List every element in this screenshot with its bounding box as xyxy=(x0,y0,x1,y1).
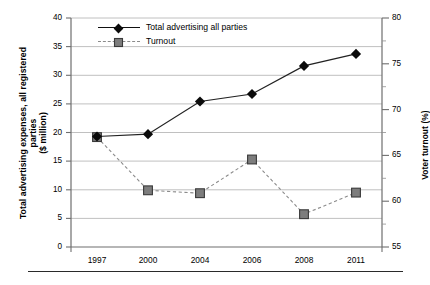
right-tick-65: 65 xyxy=(392,150,418,159)
right-tick-55: 55 xyxy=(392,242,418,251)
x-tick-2011: 2011 xyxy=(330,255,382,265)
x-tick-2000: 2000 xyxy=(122,255,174,265)
square-marker-icon xyxy=(113,37,124,48)
left-tick-40: 40 xyxy=(36,13,62,22)
x-tick-2006: 2006 xyxy=(226,255,278,265)
legend-label-advertising: Total advertising all parties xyxy=(146,22,247,32)
right-tick-60: 60 xyxy=(392,196,418,205)
legend-item-advertising: Total advertising all parties xyxy=(98,20,247,34)
x-tick-2008: 2008 xyxy=(278,255,330,265)
series-advertising-line xyxy=(97,54,356,137)
legend-label-turnout: Turnout xyxy=(146,36,175,46)
x-tick-2004: 2004 xyxy=(174,255,226,265)
right-tick-75: 75 xyxy=(392,59,418,68)
left-axis-ticks xyxy=(66,18,71,247)
y-axis-left-title: Total advertising expenses, all register… xyxy=(18,43,48,223)
right-tick-70: 70 xyxy=(392,105,418,114)
x-axis-ticks xyxy=(71,247,382,252)
diamond-marker-icon xyxy=(113,23,124,34)
x-tick-1997: 1997 xyxy=(71,255,123,265)
footer-divider xyxy=(28,271,403,272)
series-turnout-line xyxy=(97,137,356,214)
right-tick-80: 80 xyxy=(392,13,418,22)
left-tick-0: 0 xyxy=(36,242,62,251)
series-advertising-markers xyxy=(92,49,361,142)
chart-figure: 40 35 30 25 20 15 10 5 0 80 75 70 65 60 … xyxy=(0,0,430,285)
legend-key-advertising xyxy=(98,21,140,33)
gridlines xyxy=(71,18,382,218)
legend-item-turnout: Turnout xyxy=(98,34,247,48)
chart-legend: Total advertising all parties Turnout xyxy=(98,20,247,48)
legend-key-turnout xyxy=(98,35,140,47)
y-axis-right-title: Voter turnout (%) xyxy=(420,75,430,215)
